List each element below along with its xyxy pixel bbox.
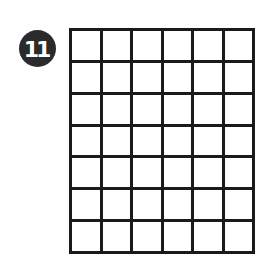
- grid-cell: [72, 31, 103, 63]
- grid-cell: [103, 190, 134, 222]
- grid-cell: [164, 127, 195, 159]
- grid-cell: [225, 127, 256, 159]
- empty-grid: [69, 28, 255, 254]
- grid-cell: [164, 158, 195, 190]
- grid-cell: [225, 95, 256, 127]
- grid-cell: [72, 63, 103, 95]
- grid-cell: [133, 158, 164, 190]
- grid-cell: [103, 95, 134, 127]
- grid-cell: [72, 190, 103, 222]
- grid-cell: [225, 63, 256, 95]
- grid-cell: [133, 190, 164, 222]
- grid-cell: [164, 31, 195, 63]
- grid-cell: [133, 127, 164, 159]
- grid-cell: [164, 63, 195, 95]
- grid-cell: [103, 158, 134, 190]
- grid-cell: [194, 63, 225, 95]
- grid-cell: [194, 127, 225, 159]
- grid-cell: [133, 31, 164, 63]
- number-badge: 11: [19, 30, 56, 67]
- grid-cell: [72, 127, 103, 159]
- grid-cell: [225, 222, 256, 254]
- grid-cell: [164, 222, 195, 254]
- grid-cell: [103, 31, 134, 63]
- grid-cell: [72, 158, 103, 190]
- grid-cell: [225, 158, 256, 190]
- grid-cell: [72, 95, 103, 127]
- grid-cell: [103, 63, 134, 95]
- grid-cell: [194, 190, 225, 222]
- grid-cell: [164, 190, 195, 222]
- grid-cell: [103, 222, 134, 254]
- grid-cell: [133, 95, 164, 127]
- grid-cell: [194, 158, 225, 190]
- grid-cell: [194, 31, 225, 63]
- grid-cell: [194, 95, 225, 127]
- grid-cell: [194, 222, 225, 254]
- grid-cell: [103, 127, 134, 159]
- grid-cell: [133, 222, 164, 254]
- grid-cell: [225, 31, 256, 63]
- grid-cell: [72, 222, 103, 254]
- badge-number: 11: [24, 37, 49, 62]
- grid-cell: [164, 95, 195, 127]
- grid-cell: [225, 190, 256, 222]
- grid-cell: [133, 63, 164, 95]
